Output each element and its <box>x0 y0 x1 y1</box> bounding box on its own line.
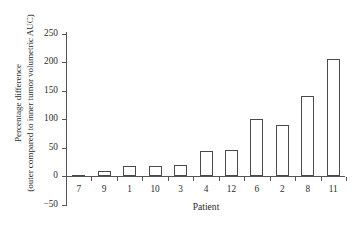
y-axis-title-line-2: (outer compared to inner tumor volumetri… <box>25 3 37 203</box>
bar-patient-12 <box>225 150 238 176</box>
bar-patient-6 <box>250 119 263 176</box>
bar-chart-figure: Percentage difference (outer compared to… <box>0 0 361 248</box>
y-tick-label-200: 200 <box>44 56 58 67</box>
x-axis-line <box>66 176 345 177</box>
y-tick-label-50: 50 <box>49 142 58 153</box>
y-tick-150: 150 <box>62 91 67 92</box>
y-axis-title-line-1: Percentage difference <box>13 3 25 203</box>
x-tick-5 <box>193 177 194 181</box>
x-tick-10 <box>321 177 322 181</box>
x-tick-3 <box>142 177 143 181</box>
x-tick-1 <box>91 177 92 181</box>
x-category-label-11: 11 <box>321 184 346 195</box>
x-tick-6 <box>219 177 220 181</box>
x-category-label-4: 4 <box>193 184 218 195</box>
y-tick-label-250: 250 <box>44 28 58 39</box>
x-category-label-3: 3 <box>168 184 193 195</box>
x-axis-title: Patient <box>66 201 346 213</box>
x-category-label-10: 10 <box>142 184 167 195</box>
x-category-label-6: 6 <box>244 184 269 195</box>
x-category-label-12: 12 <box>219 184 244 195</box>
y-axis-title: Percentage difference (outer compared to… <box>13 3 43 203</box>
x-category-label-7: 7 <box>66 184 91 195</box>
x-category-label-2: 2 <box>270 184 295 195</box>
x-category-label-8: 8 <box>295 184 320 195</box>
bar-patient-3 <box>174 165 187 176</box>
y-tick-label-150: 150 <box>44 85 58 96</box>
y-tick-250: 250 <box>62 34 67 35</box>
x-tick-8 <box>270 177 271 181</box>
bar-patient-8 <box>301 96 314 176</box>
x-category-label-9: 9 <box>91 184 116 195</box>
x-tick-4 <box>168 177 169 181</box>
x-category-label-1: 1 <box>117 184 142 195</box>
x-tick-9 <box>295 177 296 181</box>
plot-area: −50050100150200250 79110341262811 Patien… <box>66 30 346 178</box>
bar-patient-11 <box>327 59 340 176</box>
x-tick-2 <box>117 177 118 181</box>
y-tick-100: 100 <box>62 119 67 120</box>
bar-patient-2 <box>276 125 289 176</box>
x-tick-7 <box>244 177 245 181</box>
y-tick-label-100: 100 <box>44 113 58 124</box>
y-tick-50: 50 <box>62 148 67 149</box>
bar-patient-10 <box>149 166 162 176</box>
y-tick-200: 200 <box>62 62 67 63</box>
y-tick-label-0: 0 <box>53 170 58 181</box>
x-tick-0 <box>66 177 67 181</box>
bar-patient-4 <box>200 151 213 176</box>
bar-patient-9 <box>98 171 111 176</box>
y-tick-label--50: −50 <box>43 199 58 210</box>
bar-patient-1 <box>123 166 136 176</box>
x-tick-11 <box>346 177 347 181</box>
bar-patient-7 <box>72 175 85 177</box>
